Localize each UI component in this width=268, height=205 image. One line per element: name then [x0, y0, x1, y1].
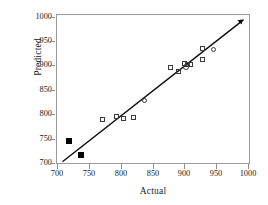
data-point-square-open — [188, 62, 193, 67]
data-points-layer — [57, 15, 249, 163]
x-axis-tick-labels: 700 750 800 850 900 950 1000 — [0, 170, 268, 184]
y-tick-mark — [50, 41, 55, 42]
data-point-square-open — [114, 114, 119, 119]
data-point-square-open — [200, 57, 205, 62]
data-point-square-open — [176, 69, 181, 74]
data-point-circle-open — [211, 47, 217, 53]
data-point-square-filled — [78, 152, 84, 158]
y-tick-mark — [50, 163, 55, 164]
y-tick-label: 900 — [22, 61, 52, 69]
y-tick-mark — [50, 90, 55, 91]
y-tick-label: 750 — [22, 135, 52, 143]
chart-figure: Predicted 1000 950 900 850 800 750 700 7… — [0, 0, 268, 205]
data-point-square-open — [131, 115, 136, 120]
y-tick-label: 850 — [22, 86, 52, 94]
data-point-triangle-filled — [237, 18, 244, 25]
x-axis-label: Actual — [56, 186, 250, 196]
data-point-circle-open — [183, 64, 189, 70]
y-tick-label: 950 — [22, 37, 52, 45]
y-tick-label: 1000 — [22, 13, 52, 21]
data-point-square-open — [200, 46, 205, 51]
data-point-square-filled — [66, 138, 72, 144]
data-point-square-open — [121, 116, 126, 121]
x-tick-label: 1000 — [228, 170, 268, 178]
y-tick-mark — [50, 17, 55, 18]
y-tick-mark — [50, 114, 55, 115]
plot-area — [56, 14, 250, 164]
data-point-square-open — [100, 117, 105, 122]
y-tick-label: 700 — [22, 159, 52, 167]
y-tick-mark — [50, 139, 55, 140]
data-point-square-open — [168, 65, 173, 70]
y-tick-label: 800 — [22, 110, 52, 118]
y-tick-mark — [50, 65, 55, 66]
data-point-circle-open — [142, 98, 148, 104]
